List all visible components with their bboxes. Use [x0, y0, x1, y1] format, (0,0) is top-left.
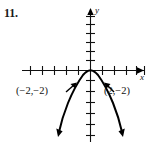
y-axis-arrowhead: [87, 8, 93, 15]
x-axis-label: x: [139, 72, 144, 82]
right-point-label: (2,−2): [104, 85, 130, 96]
y-axis-label: y: [94, 5, 99, 15]
figure-page: 11.: [0, 0, 154, 149]
left-point-label: (−2,−2): [16, 85, 48, 96]
coordinate-graph: y x: [0, 0, 154, 149]
